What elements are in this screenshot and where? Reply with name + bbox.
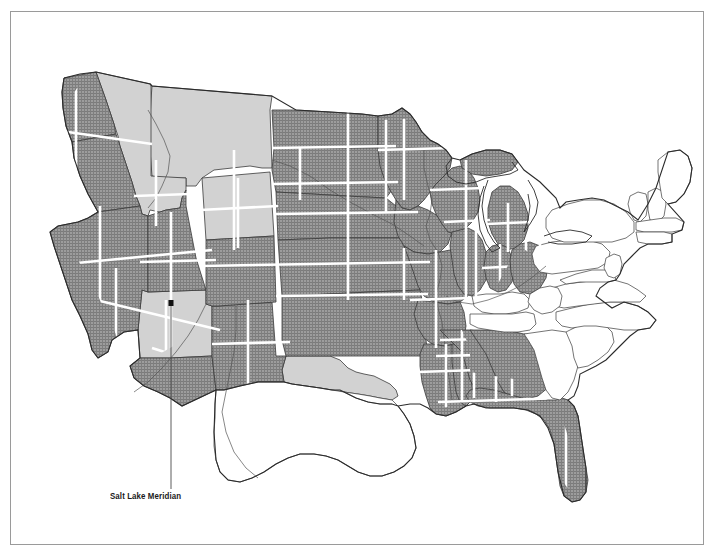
map-canvas: Salt Lake Meridian bbox=[0, 0, 717, 559]
map-figure: Salt Lake Meridian bbox=[0, 0, 717, 559]
us-plss-map bbox=[0, 0, 717, 559]
salt-lake-meridian-label: Salt Lake Meridian bbox=[110, 491, 181, 501]
